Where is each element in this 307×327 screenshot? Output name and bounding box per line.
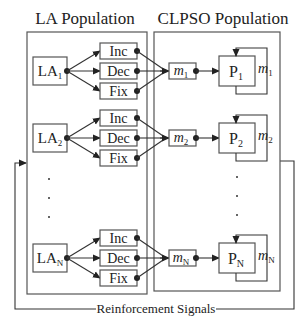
la-population-title: LA Population <box>35 9 135 28</box>
reinforcement-signals-label: Reinforcement Signals <box>97 301 216 316</box>
svg-text:Dec: Dec <box>107 64 130 79</box>
svg-text:Inc: Inc <box>110 231 128 246</box>
svg-text:Fix: Fix <box>109 151 128 166</box>
svg-text:Inc: Inc <box>110 44 128 59</box>
clpso-population-title: CLPSO Population <box>158 9 289 28</box>
svg-text:Dec: Dec <box>107 131 130 146</box>
svg-text:Dec: Dec <box>107 251 130 266</box>
svg-text:Fix: Fix <box>109 84 128 99</box>
la-clpso-diagram: LA Population CLPSO Population Reinforce… <box>0 0 307 327</box>
svg-text:Inc: Inc <box>110 111 128 126</box>
svg-text:Fix: Fix <box>109 271 128 286</box>
